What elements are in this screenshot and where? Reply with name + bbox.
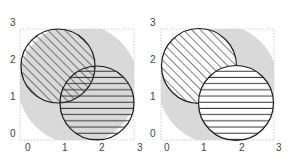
horizontal-striped-circle-pattern — [199, 66, 274, 141]
y-tick-0: 0 — [10, 128, 16, 139]
y-tick-3: 3 — [10, 17, 16, 28]
y-tick-1: 1 — [150, 91, 156, 102]
right-panel: 3 2 1 0 0 1 2 3 — [150, 17, 282, 153]
figure: 3 2 1 0 0 1 2 3 3 2 1 0 0 1 2 3 — [0, 0, 300, 164]
x-tick-0: 0 — [164, 142, 170, 153]
x-tick-3: 3 — [276, 142, 282, 153]
x-tick-1: 1 — [201, 142, 207, 153]
x-tick-0: 0 — [25, 142, 31, 153]
y-tick-1: 1 — [10, 91, 16, 102]
x-tick-2: 2 — [99, 142, 105, 153]
y-tick-0: 0 — [150, 128, 156, 139]
horizontal-striped-circle — [60, 66, 134, 140]
x-tick-3: 3 — [137, 142, 143, 153]
y-tick-2: 2 — [10, 54, 16, 65]
left-panel: 3 2 1 0 0 1 2 3 — [10, 17, 143, 153]
x-tick-1: 1 — [62, 142, 68, 153]
diagram-canvas: 3 2 1 0 0 1 2 3 3 2 1 0 0 1 2 3 — [0, 0, 300, 164]
x-tick-2: 2 — [239, 142, 245, 153]
y-tick-3: 3 — [150, 17, 156, 28]
y-tick-2: 2 — [150, 54, 156, 65]
